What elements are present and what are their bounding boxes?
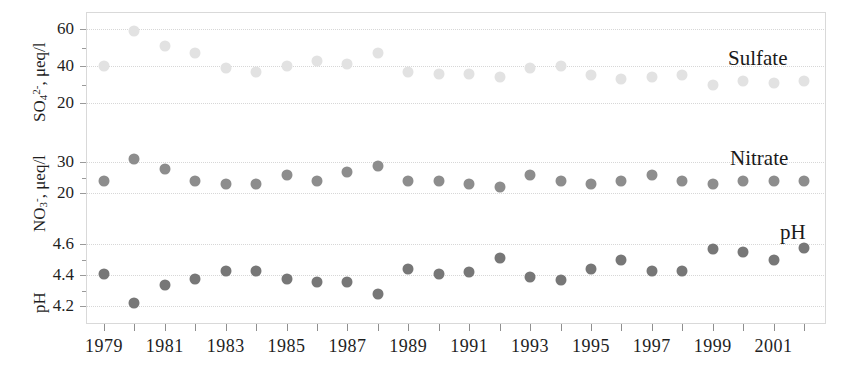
x-tick-label: 1999 <box>694 336 732 356</box>
data-point <box>799 76 810 87</box>
data-point <box>494 72 505 83</box>
y-tick-mark <box>80 29 86 30</box>
y-tick-mark <box>80 306 86 307</box>
y-minor-tick-mark <box>82 85 86 86</box>
x-tick-mark <box>195 324 196 331</box>
y-tick-mark <box>80 244 86 245</box>
x-tick-label: 1985 <box>268 336 306 356</box>
data-point <box>372 289 383 300</box>
data-point <box>372 48 383 59</box>
data-point <box>99 61 110 72</box>
x-tick-mark <box>713 324 714 331</box>
series-label-nitrate: Nitrate <box>730 148 788 169</box>
data-point <box>342 59 353 70</box>
x-tick-label: 1987 <box>328 336 366 356</box>
data-point <box>616 176 627 187</box>
data-point <box>494 253 505 264</box>
x-tick-mark <box>104 324 105 331</box>
x-tick-label: 2001 <box>755 336 793 356</box>
data-point <box>372 160 383 171</box>
data-point <box>738 247 749 258</box>
data-point <box>738 76 749 87</box>
data-point <box>555 176 566 187</box>
data-point <box>251 265 262 276</box>
data-point <box>616 254 627 265</box>
y-tick-mark <box>80 162 86 163</box>
data-point <box>129 298 140 309</box>
series-label-sulfate: Sulfate <box>728 48 787 69</box>
y-tick-label: 4.6 <box>20 235 74 252</box>
data-point <box>99 176 110 187</box>
y-tick-label: 40 <box>20 57 74 74</box>
data-point <box>159 163 170 174</box>
data-point <box>190 176 201 187</box>
data-point <box>525 63 536 74</box>
data-point <box>768 254 779 265</box>
gridline <box>86 193 826 194</box>
y-tick-mark <box>80 275 86 276</box>
x-tick-mark <box>774 324 775 331</box>
data-point <box>159 40 170 51</box>
y-tick-mark <box>80 103 86 104</box>
data-point <box>281 169 292 180</box>
data-point <box>646 169 657 180</box>
x-tick-mark <box>347 324 348 331</box>
x-tick-mark <box>591 324 592 331</box>
data-point <box>464 267 475 278</box>
x-tick-mark <box>469 324 470 331</box>
x-tick-mark <box>378 324 379 331</box>
gridline <box>86 66 826 67</box>
y-tick-label: 30 <box>20 153 74 170</box>
data-point <box>312 55 323 66</box>
data-point <box>220 179 231 190</box>
data-point <box>555 61 566 72</box>
x-tick-mark <box>804 324 805 331</box>
x-tick-mark <box>743 324 744 331</box>
x-tick-mark <box>287 324 288 331</box>
data-point <box>707 79 718 90</box>
data-point <box>433 68 444 79</box>
y-tick-label: 4.4 <box>20 266 74 283</box>
data-point <box>707 244 718 255</box>
data-point <box>799 176 810 187</box>
data-point <box>585 264 596 275</box>
data-point <box>525 272 536 283</box>
data-point <box>312 276 323 287</box>
data-point <box>403 264 414 275</box>
data-point <box>464 179 475 190</box>
x-tick-mark <box>408 324 409 331</box>
nitrate-axis-title-sub: 3 <box>37 202 49 208</box>
x-tick-mark <box>256 324 257 331</box>
data-point <box>281 273 292 284</box>
x-tick-label: 1979 <box>85 336 123 356</box>
data-point <box>707 179 718 190</box>
data-point <box>768 77 779 88</box>
x-tick-mark <box>682 324 683 331</box>
data-point <box>403 66 414 77</box>
data-point <box>281 61 292 72</box>
data-point <box>677 70 688 81</box>
data-point <box>677 176 688 187</box>
data-point <box>525 169 536 180</box>
x-tick-mark <box>439 324 440 331</box>
series-label-ph: pH <box>780 222 806 243</box>
data-point <box>251 66 262 77</box>
x-tick-mark <box>652 324 653 331</box>
sulfate-axis-title-sup: 2- <box>30 86 42 95</box>
data-point <box>159 279 170 290</box>
y-tick-label: 60 <box>20 20 74 37</box>
y-minor-tick-mark <box>82 178 86 179</box>
x-tick-label: 1991 <box>450 336 488 356</box>
y-tick-mark <box>80 193 86 194</box>
x-tick-label: 1997 <box>633 336 671 356</box>
x-tick-mark <box>621 324 622 331</box>
data-point <box>738 176 749 187</box>
x-tick-mark <box>561 324 562 331</box>
data-point <box>99 268 110 279</box>
data-point <box>464 68 475 79</box>
x-axis: 1979198119831985198719891991199319951997… <box>86 324 826 372</box>
data-point <box>768 176 779 187</box>
gridline <box>86 306 826 307</box>
data-point <box>646 72 657 83</box>
x-tick-label: 1981 <box>146 336 184 356</box>
